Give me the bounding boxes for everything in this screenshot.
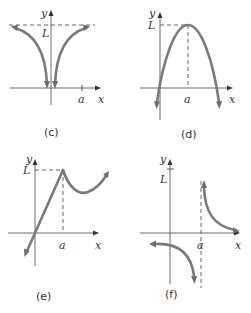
y-axis-label: y [160,154,166,165]
point-a-label: a [197,240,204,251]
curve-arrow-icon [201,180,207,188]
curve-arrow-icon [154,101,160,109]
graph-c-plot [0,0,125,156]
curve-arrow-icon [11,25,18,32]
limit-label: L [23,165,30,176]
curve-arrow-icon [83,25,90,32]
x-axis-arrow-icon [93,231,99,236]
right-branch-curve [55,28,86,84]
y-axis-arrow-icon [49,10,54,16]
graph-panel-f: y L a x (f) [125,156,251,313]
x-axis-label: x [98,94,104,105]
limit-label: L [160,174,167,185]
x-axis-arrow-icon [95,86,101,91]
limit-label: L [148,20,155,31]
x-axis-arrow-icon [227,86,233,91]
panel-caption: (e) [36,291,51,302]
graph-panel-e: y L a x (e) [0,156,125,313]
right-curve [63,170,106,193]
y-axis-arrow-icon [168,159,173,165]
point-a-label: a [184,94,191,105]
graph-panel-d: y L a x (d) [125,0,251,156]
curve-arrow-icon [191,276,197,284]
panel-caption: (d) [181,129,197,140]
y-axis-arrow-icon [33,159,38,165]
panel-caption: (c) [44,127,59,138]
y-axis-label: y [41,8,47,19]
panel-caption: (f) [165,289,177,300]
x-axis-label: x [229,94,235,105]
point-a-label: a [59,240,66,251]
x-axis-label: x [95,240,101,251]
right-branch-curve [204,188,235,230]
y-axis-label: y [149,8,155,19]
graph-f-plot [125,156,251,313]
linear-curve [27,170,63,251]
y-axis-arrow-icon [158,12,163,18]
curve-arrow-icon [149,241,156,248]
graph-panel-c: y L a x (c) [0,0,125,156]
curve-arrow-icon [216,101,222,109]
point-a-label: a [78,94,85,105]
left-branch-curve [155,244,194,276]
graph-e-plot [0,156,125,313]
limit-label: L [42,28,49,39]
x-axis-label: x [235,240,241,251]
